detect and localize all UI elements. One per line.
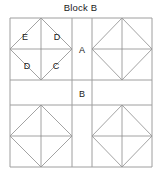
label-E: E — [22, 32, 28, 42]
label-C: C — [53, 61, 60, 71]
quilt-block-diagram: E D D C A B — [0, 0, 161, 175]
label-A: A — [79, 45, 85, 55]
label-B: B — [79, 89, 85, 99]
label-D-bottom: D — [24, 61, 31, 71]
label-D-top: D — [54, 32, 61, 42]
quilt-block-svg: E D D C A B — [0, 0, 161, 175]
block-diagram-page: Block B — [0, 0, 161, 175]
